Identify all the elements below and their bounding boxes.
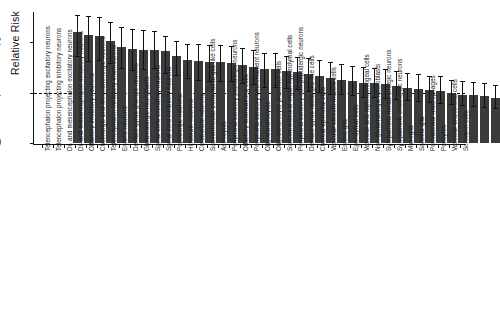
x-tick-label: Glutamatergic neuroblasts <box>143 76 150 151</box>
error-bar <box>88 16 89 61</box>
error-bar-cap <box>141 69 146 70</box>
x-tick-mark <box>427 145 428 148</box>
x-tick-mark <box>460 145 461 148</box>
x-tick-mark <box>394 145 395 148</box>
x-tick-label: Telencephalon projecting inhibitory neur… <box>55 28 62 151</box>
error-bar-cap <box>460 105 465 106</box>
error-bar-cap <box>163 36 168 37</box>
x-tick-label: Peptidergic neurons <box>176 94 183 151</box>
x-tick-label: Perivascular macrophages <box>429 75 436 151</box>
error-bar-cap <box>130 29 135 30</box>
x-tick-label: Telencephalon projecting excitatory neur… <box>44 26 51 151</box>
x-tick-mark <box>141 145 142 148</box>
x-tick-mark <box>64 145 65 148</box>
error-bar <box>473 82 474 106</box>
error-bar <box>495 85 496 108</box>
error-bar-cap <box>493 85 498 86</box>
error-bar-cap <box>460 81 465 82</box>
x-tick-mark <box>361 145 362 148</box>
x-tick-label: Enteric glia <box>341 119 348 151</box>
x-tick-label: Dentate gyrus radial glia-like cells <box>308 55 315 151</box>
x-tick-label: Microglia <box>407 125 414 151</box>
x-tick-label: Di- and mesencephalon excitatory neurons <box>66 29 73 151</box>
error-bar <box>341 64 342 94</box>
x-tick-label: Enteric neurons <box>121 106 128 151</box>
error-bar-cap <box>493 108 498 109</box>
error-bar <box>484 83 485 107</box>
x-tick-label: Olfactory ensheathing cells <box>242 74 249 151</box>
x-tick-label: Vascular and leptomeningeal cells <box>363 54 370 151</box>
x-tick-mark <box>372 145 373 148</box>
bar-group[interactable] <box>480 12 489 143</box>
x-tick-label: Telencephalon inhibitory interneurons <box>110 45 117 151</box>
x-tick-mark <box>42 145 43 148</box>
x-tick-label: Astrocytes <box>220 121 227 151</box>
error-bar-cap <box>317 60 322 61</box>
x-tick-label: Vascular smooth muscle cells <box>330 67 337 151</box>
error-bar <box>220 45 221 81</box>
x-tick-mark <box>163 145 164 148</box>
error-bar <box>176 41 177 75</box>
error-bar-cap <box>108 22 113 23</box>
x-tick-label: Sympathetic noradrenergic neurons <box>385 50 392 151</box>
x-tick-mark <box>438 145 439 148</box>
error-bar-cap <box>119 68 124 69</box>
x-tick-label: Oligodendrocyte precursor cells <box>275 61 282 151</box>
error-bar <box>440 76 441 102</box>
error-bar-cap <box>262 87 267 88</box>
x-tick-mark <box>86 145 87 148</box>
x-tick-mark <box>196 145 197 148</box>
error-bar-cap <box>438 76 443 77</box>
x-tick-label: Schwann cells <box>462 110 469 151</box>
y-tick-mark <box>30 143 34 144</box>
x-tick-mark <box>152 145 153 148</box>
y-tick-label: 0 <box>0 138 1 148</box>
x-tick-label: Peripheral sensory non-peptidergic neuro… <box>297 27 304 151</box>
error-bar-cap <box>218 45 223 46</box>
bar-group[interactable] <box>403 12 412 143</box>
x-tick-label: Peripheral sensory peptidergic neurons <box>231 40 238 151</box>
x-tick-label: Spinal cord excitatory neurons <box>154 65 161 151</box>
x-tick-mark <box>273 145 274 148</box>
x-tick-mark <box>328 145 329 148</box>
y-axis-line <box>33 12 34 145</box>
x-tick-mark <box>317 145 318 148</box>
x-tick-mark <box>108 145 109 148</box>
x-tick-label: Oligodendrocytes <box>264 101 271 151</box>
x-tick-label: Subcommissural organ hypendymal cells <box>286 35 293 151</box>
error-bar-cap <box>273 53 278 54</box>
x-tick-label: Dentate gyrus granule neurons <box>132 63 139 151</box>
x-tick-label: Olfactory inhibitory neurons <box>88 73 95 151</box>
x-tick-mark <box>405 145 406 148</box>
x-tick-label: Peripheral sensory neurofilament neurons <box>253 32 260 151</box>
x-tick-mark <box>130 145 131 148</box>
x-tick-label: Spinal cord inhibitory neurons <box>165 67 172 151</box>
error-bar-cap <box>482 107 487 108</box>
bar-group[interactable] <box>491 12 500 143</box>
x-tick-mark <box>383 145 384 148</box>
x-tick-label: Di- and mesencephalon inhibitory neurons <box>77 31 84 151</box>
x-tick-mark <box>185 145 186 148</box>
error-bar-cap <box>471 106 476 107</box>
x-tick-mark <box>251 145 252 148</box>
y-tick-label: 2 <box>0 37 1 47</box>
error-bar-cap <box>141 30 146 31</box>
error-bar-cap <box>405 100 410 101</box>
bar-group[interactable] <box>469 12 478 143</box>
error-bar <box>198 44 199 80</box>
error-bar-cap <box>471 82 476 83</box>
x-tick-mark <box>174 145 175 148</box>
error-bar <box>187 44 188 78</box>
x-tick-label: Satellite glia <box>418 116 425 151</box>
y-tick-mark <box>30 42 34 43</box>
error-bar-cap <box>405 73 410 74</box>
bar-group[interactable] <box>436 12 445 143</box>
error-bar-cap <box>75 15 80 16</box>
x-tick-label: Sympathetic cholinergic neurons <box>396 58 403 151</box>
x-tick-label: Ependymal cells <box>352 104 359 151</box>
error-bar-cap <box>438 103 443 104</box>
error-bar-cap <box>218 81 223 82</box>
error-bar-cap <box>97 17 102 18</box>
x-tick-label: Hindbrain neurons <box>187 99 194 151</box>
error-bar <box>352 66 353 95</box>
